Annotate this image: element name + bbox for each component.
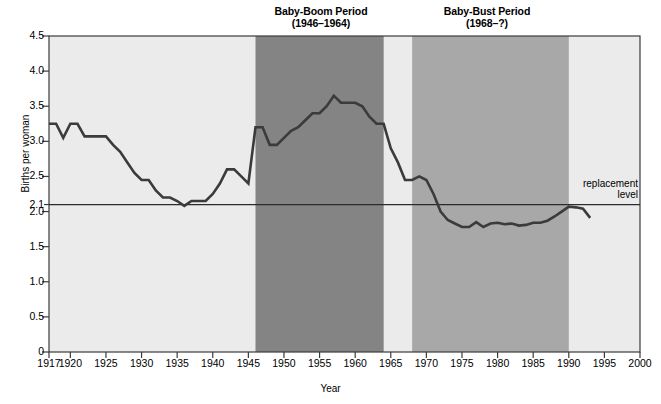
y-tick-label: 1.5 — [10, 240, 44, 252]
y-tick-label: 0 — [10, 345, 44, 357]
x-tick-label: 1945 — [231, 357, 265, 369]
x-tick-label: 1980 — [481, 357, 515, 369]
chart-figure: Baby-Boom Period (1946–1964) Baby-Bust P… — [0, 0, 661, 404]
y-tick-label: 0.5 — [10, 310, 44, 322]
y-tick-label: 4.5 — [10, 29, 44, 41]
x-tick-label: 1985 — [516, 357, 550, 369]
x-tick-label: 1925 — [89, 357, 123, 369]
y-tick-label: 1.0 — [10, 275, 44, 287]
plot-area — [0, 0, 661, 404]
replacement-annotation-line1: replacement — [520, 178, 638, 190]
x-tick-label: 1960 — [338, 357, 372, 369]
shaded-region-baby-boom — [255, 36, 383, 352]
y-tick-label: 2.1 — [10, 198, 44, 210]
x-tick-label: 1930 — [125, 357, 159, 369]
x-axis-label: Year — [0, 383, 661, 394]
y-tick-label: 3.0 — [10, 134, 44, 146]
x-tick-label: 1950 — [267, 357, 301, 369]
y-tick-label: 3.5 — [10, 99, 44, 111]
y-tick-label: 4.0 — [10, 64, 44, 76]
x-tick-label: 1970 — [409, 357, 443, 369]
baby-boom-period-title: Baby-Boom Period (1946–1964) — [249, 5, 393, 29]
x-tick-label: 2000 — [623, 357, 657, 369]
baby-bust-title-line2: (1968–?) — [417, 17, 557, 29]
y-tick-label: 2.5 — [10, 169, 44, 181]
baby-boom-title-line2: (1946–1964) — [249, 17, 393, 29]
x-tick-label: 1965 — [374, 357, 408, 369]
baby-bust-title-line1: Baby-Bust Period — [417, 5, 557, 17]
x-tick-label: 1920 — [53, 357, 87, 369]
replacement-annotation-line2: level — [520, 189, 638, 201]
x-tick-label: 1990 — [552, 357, 586, 369]
x-tick-label: 1935 — [160, 357, 194, 369]
x-tick-label: 1995 — [587, 357, 621, 369]
x-tick-label: 1975 — [445, 357, 479, 369]
x-tick-label: 1940 — [196, 357, 230, 369]
x-tick-label: 1955 — [303, 357, 337, 369]
replacement-level-annotation: replacement level — [520, 178, 638, 201]
baby-bust-period-title: Baby-Bust Period (1968–?) — [417, 5, 557, 29]
baby-boom-title-line1: Baby-Boom Period — [249, 5, 393, 17]
